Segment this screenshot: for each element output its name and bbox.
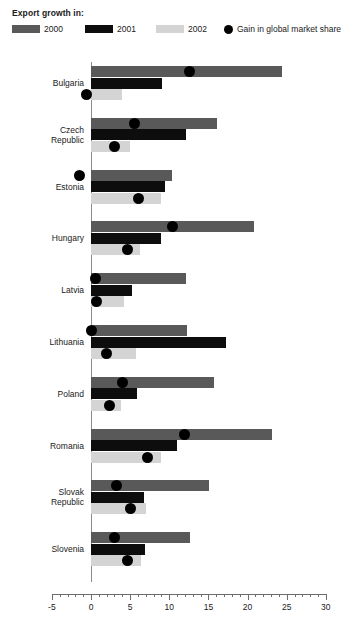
x-tick-label: 10: [165, 602, 174, 612]
x-tick-minor: [99, 594, 100, 597]
bar-2000: [91, 170, 172, 181]
market-share-dot: [74, 170, 85, 181]
x-axis: -5051015202530: [0, 594, 335, 628]
x-tick-minor: [216, 594, 217, 597]
legend-swatch-2000: [12, 25, 40, 33]
x-tick-minor: [138, 594, 139, 597]
market-share-dot: [117, 377, 128, 388]
legend-row: 2000 2001 2002 Gain in global market sha…: [12, 24, 327, 38]
bar-2001: [91, 129, 186, 140]
bar-2002: [91, 193, 161, 204]
bar-2002: [91, 89, 122, 100]
x-tick-label: 20: [243, 602, 252, 612]
x-tick-label: -5: [48, 602, 56, 612]
x-tick-minor: [279, 594, 280, 597]
category-label: Lithuania: [4, 337, 84, 347]
x-tick-minor: [107, 594, 108, 597]
bar-2000: [91, 118, 217, 129]
market-share-dot-icon: [224, 25, 233, 34]
x-tick-label: 25: [282, 602, 291, 612]
legend-swatch-2001: [85, 25, 113, 33]
x-tick-minor: [193, 594, 194, 597]
x-tick-minor: [146, 594, 147, 597]
x-tick-minor: [240, 594, 241, 597]
market-share-dot: [81, 89, 92, 100]
legend-label-2002: 2002: [188, 24, 207, 34]
x-tick-minor: [302, 594, 303, 597]
category-label: Hungary: [4, 233, 84, 243]
bar-2002: [91, 244, 140, 255]
bar-2001: [91, 440, 177, 451]
x-tick-minor: [295, 594, 296, 597]
x-tick-minor: [201, 594, 202, 597]
bar-2000: [91, 325, 187, 336]
market-share-dot: [179, 429, 190, 440]
legend-item-2001: 2001: [85, 24, 136, 34]
x-tick-major: [169, 594, 170, 600]
bar-2000: [91, 480, 209, 491]
x-tick-minor: [161, 594, 162, 597]
x-tick-minor: [75, 594, 76, 597]
category-label: Poland: [4, 389, 84, 399]
x-tick-major: [130, 594, 131, 600]
bar-2001: [91, 544, 145, 555]
bar-2000: [91, 532, 190, 543]
x-axis-line: [52, 594, 326, 595]
market-share-dot: [86, 325, 97, 336]
market-share-dot: [129, 118, 140, 129]
bar-2001: [91, 388, 137, 399]
bar-2001: [91, 181, 165, 192]
bar-2001: [91, 492, 144, 503]
x-tick-major: [287, 594, 288, 600]
x-tick-minor: [122, 594, 123, 597]
x-tick-major: [91, 594, 92, 600]
legend-item-market-share: Gain in global market share: [224, 24, 341, 34]
legend-label-2000: 2000: [44, 24, 63, 34]
x-tick-minor: [68, 594, 69, 597]
category-label: Romania: [4, 441, 84, 451]
x-tick-label: 15: [204, 602, 213, 612]
x-tick-label: 0: [89, 602, 94, 612]
legend-item-2000: 2000: [12, 24, 63, 34]
x-tick-minor: [255, 594, 256, 597]
x-tick-minor: [83, 594, 84, 597]
bar-2001: [91, 337, 226, 348]
x-tick-label: 5: [128, 602, 133, 612]
x-tick-minor: [177, 594, 178, 597]
x-tick-minor: [310, 594, 311, 597]
bar-2001: [91, 78, 162, 89]
legend-title: Export growth in:: [12, 8, 327, 18]
legend-item-2002: 2002: [156, 24, 207, 34]
x-tick-minor: [185, 594, 186, 597]
market-share-dot: [109, 141, 120, 152]
x-tick-label: 30: [321, 602, 330, 612]
legend-label-market-share: Gain in global market share: [237, 24, 341, 34]
category-label: Slovenia: [4, 544, 84, 554]
x-tick-minor: [224, 594, 225, 597]
bar-2000: [91, 273, 186, 284]
market-share-dot: [142, 452, 153, 463]
bar-2002: [91, 348, 136, 359]
plot-area: BulgariaCzech RepublicEstoniaHungaryLatv…: [0, 60, 335, 628]
x-tick-minor: [232, 594, 233, 597]
x-tick-minor: [318, 594, 319, 597]
category-label: Latvia: [4, 285, 84, 295]
market-share-dot: [133, 193, 144, 204]
bar-2000: [91, 377, 214, 388]
x-tick-major: [208, 594, 209, 600]
chart-legend: Export growth in: 2000 2001 2002 Gain in…: [12, 8, 327, 38]
bar-2001: [91, 233, 161, 244]
category-label: Bulgaria: [4, 78, 84, 88]
x-tick-major: [248, 594, 249, 600]
category-label: Slovak Republic: [4, 487, 84, 507]
market-share-dot: [125, 503, 136, 514]
market-share-dot: [122, 244, 133, 255]
legend-label-2001: 2001: [117, 24, 136, 34]
x-tick-minor: [263, 594, 264, 597]
category-label: Estonia: [4, 182, 84, 192]
bar-2001: [91, 285, 132, 296]
x-tick-minor: [271, 594, 272, 597]
legend-swatch-2002: [156, 25, 184, 33]
market-share-dot: [104, 400, 115, 411]
